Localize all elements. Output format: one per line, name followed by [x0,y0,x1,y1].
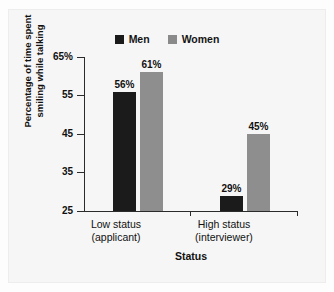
x-category-label-high-status-line2: (interviewer) [164,231,284,244]
x-axis-title: Status [84,250,298,262]
legend-entry-men: Men [115,34,150,45]
chart-legend: Men Women [0,31,334,47]
legend-label-men: Men [129,34,150,45]
y-tick-label-35: 35 [62,166,73,177]
y-tick-label-45: 45 [62,128,73,139]
x-tick-mid [190,212,191,216]
bar-label-low-status-men: 56% [114,79,134,90]
bar-low-status-women: 61% [140,72,163,211]
legend-swatch-women-icon [168,35,177,44]
x-category-label-low-status: Low status (applicant) [56,218,176,243]
x-tick-end [297,212,298,216]
bar-high-status-men: 29% [220,196,243,211]
y-axis-line [84,57,85,212]
x-category-label-low-status-line2: (applicant) [56,231,176,244]
plot-area: 25 35 45 55 65% 56% 61% 29% 45% [84,57,298,211]
x-category-label-low-status-line1: Low status [56,218,176,231]
bar-label-high-status-men: 29% [221,183,241,194]
y-axis-title: Percentage of time spent smiling while t… [19,0,49,151]
legend-swatch-men-icon [115,35,124,44]
y-tick-25: 25 [77,211,84,212]
x-axis-line [84,211,298,212]
y-axis-title-line1: Percentage of time spent [22,15,34,128]
y-tick-35: 35 [77,172,84,173]
y-tick-label-55: 55 [62,89,73,100]
bar-chart-figure: Men Women Percentage of time spent smili… [0,0,334,292]
bar-label-low-status-women: 61% [141,59,161,70]
bar-label-high-status-women: 45% [248,121,268,132]
y-tick-label-65: 65% [53,51,73,62]
y-tick-65: 65% [77,57,84,58]
y-tick-label-25: 25 [62,205,73,216]
legend-label-women: Women [182,34,220,45]
x-category-label-high-status: High status (interviewer) [164,218,284,243]
y-tick-55: 55 [77,95,84,96]
bar-high-status-women: 45% [247,134,270,211]
bar-low-status-men: 56% [113,92,136,211]
x-category-label-high-status-line1: High status [164,218,284,231]
legend-entry-women: Women [168,34,220,45]
y-axis-title-line2: smiling while talking [34,25,46,118]
y-tick-45: 45 [77,134,84,135]
